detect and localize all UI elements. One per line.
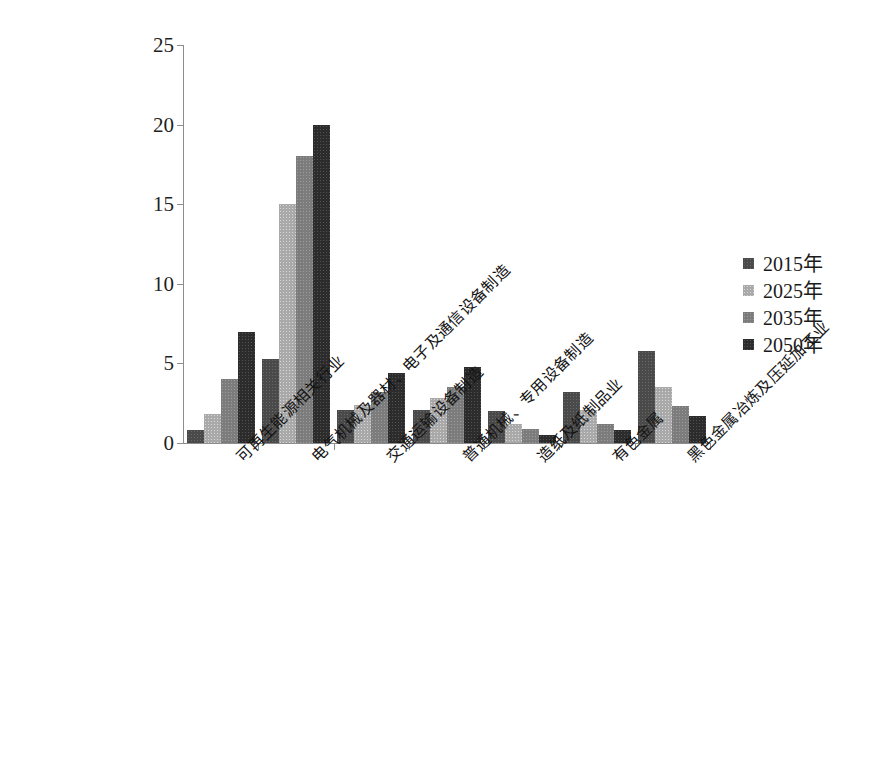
category-label: 电气机械及器材、电子及通信设备制造: [310, 455, 321, 466]
legend-swatch-icon: [743, 285, 754, 296]
y-tick-label: 15: [153, 194, 174, 215]
y-tick-mark: [177, 204, 183, 205]
legend-label: 2050年: [763, 335, 823, 355]
legend-item: 2015年: [743, 250, 823, 277]
bar-chart: 0510152025 可再生能源相关行业电气机械及器材、电子及通信设备制造交通运…: [0, 0, 870, 766]
y-tick-label: 25: [153, 35, 174, 56]
legend-item: 2025年: [743, 277, 823, 304]
y-tick-label: 10: [153, 273, 174, 294]
legend-label: 2015年: [763, 254, 823, 274]
bar: [522, 429, 539, 443]
legend-swatch-icon: [743, 312, 754, 323]
bar: [221, 379, 238, 443]
legend-swatch-icon: [743, 339, 754, 350]
legend-item: 2050年: [743, 331, 823, 358]
bar: [238, 332, 255, 443]
category-label: 有色金属: [611, 455, 622, 466]
category-label: 黑色金属冶炼及压延加工业: [686, 455, 697, 466]
legend-item: 2035年: [743, 304, 823, 331]
bar: [672, 406, 689, 443]
category-label: 可再生能源相关行业: [235, 455, 246, 466]
bar: [597, 424, 614, 443]
legend-swatch-icon: [743, 258, 754, 269]
bar-group: [187, 45, 255, 443]
y-tick-mark: [177, 443, 183, 444]
plot-area: 0510152025: [183, 45, 710, 443]
y-tick-mark: [177, 363, 183, 364]
y-tick-mark: [177, 125, 183, 126]
bar: [187, 430, 204, 443]
category-label: 普通机械、专用设备制造: [461, 455, 472, 466]
legend-label: 2035年: [763, 308, 823, 328]
y-tick-label: 5: [164, 353, 175, 374]
category-label: 交通运输设备制造: [385, 455, 396, 466]
legend: 2015年2025年2035年2050年: [743, 250, 823, 358]
y-tick-label: 0: [164, 433, 175, 454]
bar: [204, 414, 221, 443]
legend-label: 2025年: [763, 281, 823, 301]
y-tick-label: 20: [153, 114, 174, 135]
y-tick-mark: [177, 45, 183, 46]
bar-group: [638, 45, 706, 443]
y-tick-mark: [177, 284, 183, 285]
category-label: 造纸及纸制品业: [536, 455, 547, 466]
